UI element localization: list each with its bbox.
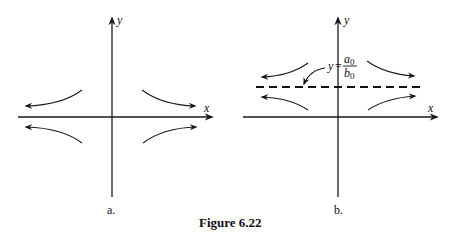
eq-lhs: y: [327, 59, 334, 73]
eq-denominator: b0: [344, 66, 355, 81]
panel-a: y x a.: [18, 13, 212, 217]
y-axis-label: y: [116, 13, 123, 27]
x-axis-label: x: [427, 101, 434, 115]
trajectory-lower-left: [262, 97, 308, 110]
trajectory-upper-left: [262, 63, 308, 77]
x-axis-label: x: [203, 101, 210, 115]
trajectory-lower-left: [26, 127, 82, 143]
trajectory-upper-left: [26, 90, 82, 106]
panel-b-label: b.: [334, 203, 343, 217]
panel-a-label: a.: [107, 203, 115, 217]
y-axis-label: y: [343, 13, 350, 27]
trajectory-upper-right: [142, 90, 195, 106]
equilibrium-label: y = a0 b0: [304, 52, 357, 84]
trajectory-lower-right: [368, 96, 415, 110]
eq-numerator: a0: [344, 52, 355, 67]
label-pointer-arrow: [304, 68, 325, 84]
figure-caption: Figure 6.22: [199, 215, 262, 230]
panel-b: y x y = a0 b0 b.: [243, 13, 437, 217]
eq-sign: =: [335, 59, 342, 73]
trajectory-upper-right: [367, 61, 414, 76]
trajectory-lower-right: [143, 127, 196, 143]
figure-6-22: y x a. y x y = a0 b0: [0, 0, 452, 234]
